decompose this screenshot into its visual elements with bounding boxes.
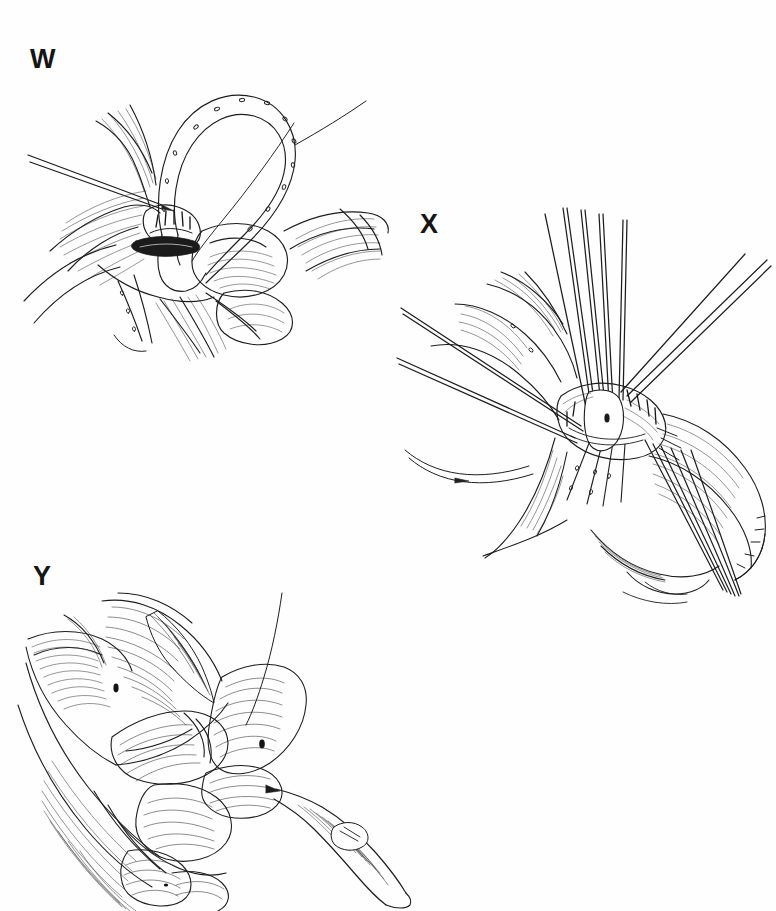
panel-x-artwork [395, 200, 776, 615]
panel-label-y: Y [33, 563, 51, 590]
panel-y-illustration [8, 555, 438, 911]
figure-sheet: W [0, 0, 776, 911]
panel-w-illustration [10, 35, 400, 365]
panel-label-x: X [420, 211, 438, 238]
panel-label-w: W [30, 46, 55, 73]
panel-x-illustration [395, 200, 776, 615]
panel-y-artwork [8, 555, 438, 911]
panel-w-artwork [10, 35, 400, 365]
